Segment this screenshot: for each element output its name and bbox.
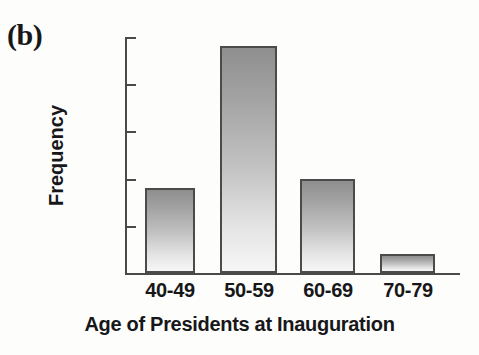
y-axis-line: [125, 37, 127, 274]
panel-label: (b): [7, 18, 42, 52]
bar-40-49: [145, 188, 195, 273]
x-axis-line: [125, 273, 460, 275]
y-tick-mark-5: [127, 226, 136, 228]
bar-50-59: [220, 46, 277, 273]
y-axis-title: Frequency: [45, 76, 68, 236]
y-tick-mark-10: [127, 179, 136, 181]
x-axis-title: Age of Presidents at Inauguration: [0, 313, 479, 336]
x-tick-label-70-79: 70-79: [363, 279, 453, 302]
bar-70-79: [380, 254, 435, 273]
y-tick-mark-25: [127, 37, 136, 39]
y-tick-mark-15: [127, 131, 136, 133]
y-tick-mark-20: [127, 84, 136, 86]
bar-60-69: [300, 179, 355, 273]
x-axis-tick-labels: 40-49 50-59 60-69 70-79: [125, 279, 460, 305]
figure-panel-b: (b) Frequency 25 20 15 10 5 0 40-49 50-5…: [0, 0, 479, 355]
x-tick-label-60-69: 60-69: [283, 279, 373, 302]
x-tick-label-50-59: 50-59: [204, 279, 294, 302]
plot-area: [125, 37, 460, 274]
x-tick-label-40-49: 40-49: [125, 279, 215, 302]
